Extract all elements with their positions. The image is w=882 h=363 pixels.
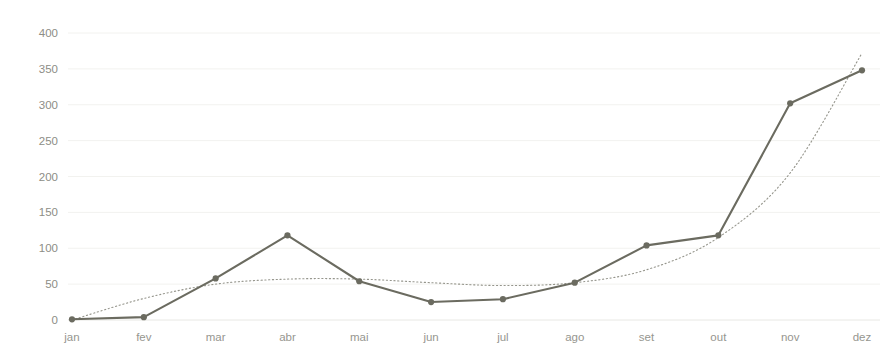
data-point-marker: [500, 296, 506, 302]
y-axis-tick-label: 300: [39, 99, 58, 111]
x-axis-tick-label: jul: [496, 331, 509, 343]
x-axis-tick-label: jun: [422, 331, 438, 343]
y-axis-tick-label: 400: [39, 27, 58, 39]
x-axis-tick-label: mar: [206, 331, 226, 343]
y-axis-tick-label: 100: [39, 242, 58, 254]
data-point-marker: [715, 232, 721, 238]
y-axis-tick-label: 50: [45, 278, 58, 290]
y-axis-tick-label: 350: [39, 63, 58, 75]
data-point-marker: [284, 232, 290, 238]
data-point-marker: [69, 316, 75, 322]
x-axis-tick-label: jan: [63, 331, 79, 343]
x-axis-tick-label: ago: [565, 331, 584, 343]
data-point-marker: [787, 100, 793, 106]
data-point-marker: [213, 275, 219, 281]
data-point-marker: [572, 280, 578, 286]
x-axis-tick-label: dez: [853, 331, 872, 343]
data-point-marker: [643, 242, 649, 248]
x-axis-tick-label: nov: [781, 331, 800, 343]
data-point-marker: [141, 314, 147, 320]
chart-background: [0, 0, 882, 363]
x-axis-tick-label: set: [639, 331, 655, 343]
x-axis-tick-label: mai: [350, 331, 369, 343]
y-axis-tick-label: 0: [52, 314, 58, 326]
data-point-marker: [859, 67, 865, 73]
line-chart: 050100150200250300350400 janfevmarabrmai…: [0, 0, 882, 363]
y-axis-tick-label: 150: [39, 206, 58, 218]
data-point-marker: [428, 299, 434, 305]
chart-canvas: 050100150200250300350400 janfevmarabrmai…: [0, 0, 882, 363]
x-axis-tick-label: out: [710, 331, 727, 343]
x-axis-tick-label: abr: [279, 331, 296, 343]
data-point-marker: [356, 278, 362, 284]
y-axis-tick-label: 250: [39, 135, 58, 147]
x-axis-tick-label: fev: [136, 331, 152, 343]
y-axis-tick-label: 200: [39, 171, 58, 183]
